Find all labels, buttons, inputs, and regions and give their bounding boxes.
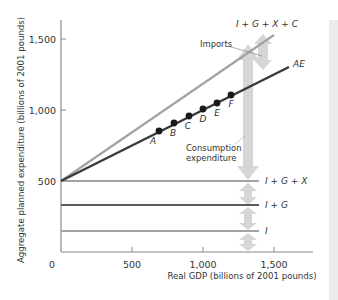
- series-label-I-G: I + G: [265, 200, 288, 210]
- point-label-F: F: [228, 99, 234, 109]
- series-label-I-G-X: I + G + X: [265, 176, 308, 186]
- line-I-G-X-C: [61, 35, 274, 181]
- point-D: [200, 106, 207, 113]
- point-F: [228, 92, 235, 99]
- component-arrows: [237, 34, 272, 251]
- series-label-I-G-X-C: I + G + X + C: [236, 19, 299, 29]
- series-label-AE: AE: [292, 59, 305, 69]
- point-label-B: B: [170, 128, 176, 138]
- point-label-C: C: [185, 121, 192, 131]
- point-label-E: E: [214, 108, 220, 118]
- point-label-D: D: [200, 114, 207, 124]
- point-C: [186, 113, 193, 120]
- series-label-I: I: [265, 226, 268, 236]
- consumption-label-line1: Consumption: [186, 143, 241, 153]
- y-axis-title: Aggregate planned expenditure (billions …: [16, 17, 26, 263]
- x-tick-label-1500: 1,500: [260, 259, 287, 270]
- y-tick-label-500: 500: [38, 176, 56, 187]
- x-axis-title: Real GDP (billions of 2001 pounds): [167, 271, 316, 281]
- aggregate-expenditure-chart: 1,500 1,000 500 0 500 1,000 1,500 Real G…: [0, 0, 338, 300]
- investment-arrow: [239, 233, 257, 251]
- point-label-A: A: [149, 136, 156, 146]
- consumption-label-line2: expenditure: [186, 153, 236, 163]
- x-tick-label-500: 500: [123, 259, 141, 270]
- imports-label: Imports: [200, 39, 232, 49]
- point-B: [171, 120, 178, 127]
- origin-label: 0: [49, 259, 55, 270]
- point-A: [156, 128, 163, 135]
- x-tick-label-1000: 1,000: [189, 259, 216, 270]
- point-E: [214, 100, 221, 107]
- consumption-arrow: [237, 44, 259, 180]
- government-arrow: [239, 207, 257, 230]
- exports-arrow: [239, 183, 257, 205]
- y-tick-label-1500: 1,500: [29, 34, 56, 45]
- y-tick-label-1000: 1,000: [29, 105, 56, 116]
